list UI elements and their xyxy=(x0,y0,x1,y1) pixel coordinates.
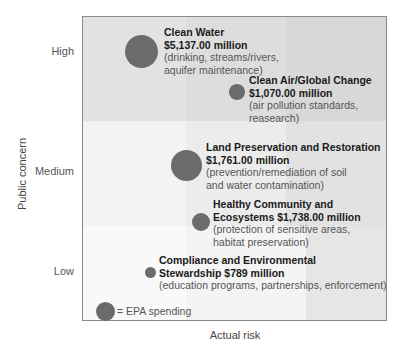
y-label-high: High xyxy=(14,45,74,57)
legend-text: = EPA spending xyxy=(117,305,191,317)
label-compliance: Compliance and Environmental Stewardship… xyxy=(159,254,387,292)
label-desc: habitat preservation) xyxy=(213,236,361,249)
label-desc: (prevention/remediation of soil xyxy=(206,166,380,179)
bubble-compliance xyxy=(145,267,156,278)
label-desc: (drinking, streams/rivers, xyxy=(164,51,279,64)
label-amount: Stewardship $789 million xyxy=(159,267,387,280)
label-title: Clean Water xyxy=(164,26,279,39)
label-amount: Ecosystems $1,738.00 million xyxy=(213,211,361,224)
y-label-low: Low xyxy=(14,265,74,277)
label-title: Land Preservation and Restoration xyxy=(206,141,380,154)
label-amount: $1,761.00 million xyxy=(206,154,380,167)
band-mid-left xyxy=(83,121,186,226)
label-healthy-community: Healthy Community and Ecosystems $1,738.… xyxy=(213,198,361,248)
label-title: Healthy Community and xyxy=(213,198,361,211)
label-desc: (air pollution standards, xyxy=(249,99,372,112)
label-amount: $5,137.00 million xyxy=(164,39,279,52)
label-desc: reasearch) xyxy=(249,112,372,125)
label-desc: (protection of sensitive areas, xyxy=(213,223,361,236)
label-clean-water: Clean Water $5,137.00 million (drinking,… xyxy=(164,26,279,76)
bubble-clean-air xyxy=(229,84,245,100)
bubble-land-preservation xyxy=(171,150,202,181)
bubble-clean-water xyxy=(125,35,158,68)
label-land-preservation: Land Preservation and Restoration $1,761… xyxy=(206,141,380,191)
label-title: Clean Air/Global Change xyxy=(249,74,372,87)
x-axis-title: Actual risk xyxy=(185,329,285,341)
label-clean-air: Clean Air/Global Change $1,070.00 millio… xyxy=(249,74,372,124)
label-title: Compliance and Environmental xyxy=(159,254,387,267)
legend-bubble-icon xyxy=(96,302,115,321)
y-label-medium: Medium xyxy=(14,165,74,177)
label-amount: $1,070.00 million xyxy=(249,87,372,100)
label-desc: (education programs, partnerships, enfor… xyxy=(159,279,387,292)
bubble-healthy-community xyxy=(192,213,210,231)
label-desc: and water contamination) xyxy=(206,179,380,192)
